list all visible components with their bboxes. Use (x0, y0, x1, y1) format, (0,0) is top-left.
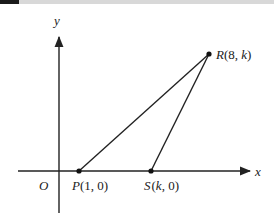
point-r (206, 51, 211, 56)
point-s (148, 168, 153, 173)
point-r-name: R (215, 47, 224, 62)
origin-label: O (39, 178, 49, 193)
point-p-coords: (1, 0) (80, 178, 108, 193)
coordinate-diagram: y x O P(1, 0) S(k, 0) R(8, k) (0, 0, 274, 218)
point-s-coords-close: , 0) (162, 178, 179, 193)
y-axis-label: y (52, 13, 60, 28)
segment-sr (151, 54, 209, 171)
point-p-label: P(1, 0) (71, 178, 108, 193)
segment-pr (79, 54, 209, 171)
point-s-label: S(k, 0) (144, 178, 179, 193)
point-s-name: S (144, 178, 151, 193)
point-r-label: R(8, k) (215, 47, 251, 62)
x-axis-label: x (254, 164, 261, 179)
point-p-name: P (71, 178, 80, 193)
point-r-coords-open: (8, (224, 47, 241, 62)
point-r-coords-close: ) (247, 47, 251, 62)
point-p (76, 168, 81, 173)
